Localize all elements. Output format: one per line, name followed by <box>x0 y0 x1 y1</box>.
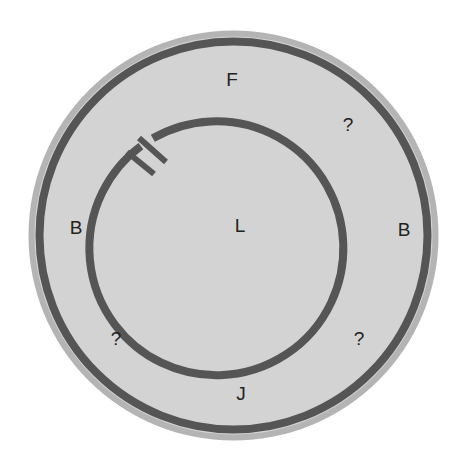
label-center: L <box>235 215 246 236</box>
label-right: B <box>398 219 411 240</box>
label-bottom-left: ? <box>111 328 122 349</box>
label-bottom-right: ? <box>354 328 365 349</box>
ring-diagram: F ? B L B ? ? J <box>0 0 466 469</box>
label-bottom: J <box>236 383 246 404</box>
label-left: B <box>70 217 83 238</box>
label-top: F <box>226 69 238 90</box>
label-top-right: ? <box>343 114 354 135</box>
